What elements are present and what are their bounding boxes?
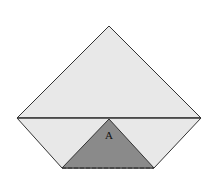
folded-paper-diagram: A: [0, 0, 213, 179]
upper-triangle: [17, 26, 201, 118]
region-label-a: A: [105, 129, 113, 141]
